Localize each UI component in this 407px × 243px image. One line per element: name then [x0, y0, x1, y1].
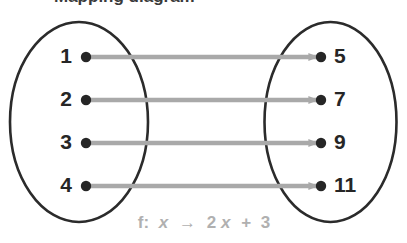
domain-dot-4: [81, 181, 91, 191]
domain-dot-1: [81, 52, 91, 62]
rule-variable: x: [158, 213, 170, 232]
range-dot-5: [316, 52, 326, 62]
cut-off-title: Mapping diagram: [54, 0, 195, 6]
range-label-11: 11: [334, 173, 357, 196]
range-dot-9: [316, 138, 326, 148]
domain-label-2: 2: [60, 87, 72, 110]
domain-dot-group: [81, 52, 91, 191]
diagram-svg: Mapping diagram 1 2 3 4: [0, 0, 407, 243]
range-label-5: 5: [334, 44, 346, 67]
rule-constant: 3: [261, 213, 270, 232]
range-label-9: 9: [334, 130, 346, 153]
rule-plus: +: [241, 213, 251, 232]
function-rule-label: f: x → 2 x + 3: [138, 213, 271, 232]
range-dot-7: [316, 95, 326, 105]
domain-label-4: 4: [60, 173, 72, 196]
range-label-7: 7: [334, 87, 346, 110]
domain-oval: [10, 22, 148, 222]
rule-expression-variable: x: [220, 213, 232, 232]
range-dot-group: [316, 52, 326, 191]
rule-coefficient: 2: [207, 213, 216, 232]
domain-label-3: 3: [60, 130, 72, 153]
domain-dot-3: [81, 138, 91, 148]
arrow-group: [88, 57, 318, 186]
range-dot-11: [316, 181, 326, 191]
rule-prefix: f:: [138, 213, 149, 232]
rule-maps-to-icon: →: [179, 213, 196, 232]
svg-text:f: x →: f: x → 2 x + 3: [138, 213, 271, 232]
domain-dot-2: [81, 95, 91, 105]
range-oval: [265, 22, 397, 222]
domain-label-1: 1: [60, 44, 72, 67]
mapping-diagram-canvas: Mapping diagram 1 2 3 4: [0, 0, 407, 243]
